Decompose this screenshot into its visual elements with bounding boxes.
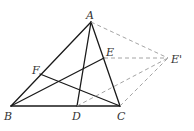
label-D: D [71,110,81,123]
label-E: E [105,46,114,59]
segment-CE-prime [120,58,168,106]
segment-AC [91,22,120,106]
label-F: F [31,64,40,77]
label-A: A [85,9,94,22]
label-B: B [3,110,12,123]
label-E-prime: E' [170,53,182,66]
label-C: C [117,110,126,123]
geometry-diagram: A B D C E E' F [0,0,194,131]
segment-AE-prime [91,22,168,58]
segment-CF [40,74,120,106]
